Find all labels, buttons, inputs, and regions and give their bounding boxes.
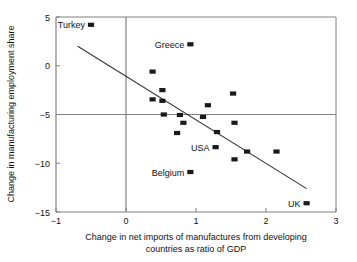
y-tick-label: −5 bbox=[40, 110, 50, 120]
x-tick-label: 3 bbox=[333, 216, 338, 226]
y-tick-label: 0 bbox=[45, 61, 50, 71]
y-tick-label: −15 bbox=[35, 208, 50, 218]
data-point-marker bbox=[177, 113, 183, 117]
x-axis-title-line1: Change in net imports of manufactures fr… bbox=[85, 232, 307, 242]
y-tick-label: −10 bbox=[35, 159, 50, 169]
y-axis-title: Change in manufacturing employment share bbox=[6, 25, 16, 202]
data-point-marker bbox=[273, 149, 279, 153]
data-point-marker bbox=[88, 23, 94, 27]
data-point-marker bbox=[187, 170, 193, 174]
data-point-marker bbox=[150, 70, 156, 74]
x-tick-labels-group: −10123 bbox=[51, 216, 339, 226]
data-point-marker bbox=[150, 97, 156, 101]
data-point-marker bbox=[304, 201, 310, 205]
x-axis-title-line2: countries as ratio of GDP bbox=[146, 244, 247, 254]
data-point-marker bbox=[200, 115, 206, 119]
x-tick-label: 1 bbox=[193, 216, 198, 226]
scatter-chart-figure: −10123 50−5−10−15 TurkeyGreeceUSABelgium… bbox=[0, 0, 357, 262]
data-point-marker bbox=[213, 145, 219, 149]
x-tick-label: −1 bbox=[51, 216, 61, 226]
point-label-belgium: Belgium bbox=[152, 168, 185, 178]
data-point-marker bbox=[214, 130, 220, 134]
trend-line bbox=[78, 46, 307, 188]
y-tick-label: 5 bbox=[45, 13, 50, 23]
x-axis-title: Change in net imports of manufactures fr… bbox=[85, 232, 307, 254]
data-point-marker bbox=[174, 131, 180, 135]
x-tick-label: 0 bbox=[123, 216, 128, 226]
x-tick-label: 2 bbox=[263, 216, 268, 226]
data-point-marker bbox=[180, 121, 186, 125]
axes-group bbox=[56, 17, 336, 212]
point-label-uk: UK bbox=[288, 199, 301, 209]
data-point-marker bbox=[205, 103, 211, 107]
point-label-greece: Greece bbox=[155, 40, 185, 50]
point-label-usa: USA bbox=[191, 143, 210, 153]
data-point-marker bbox=[187, 42, 193, 46]
data-point-marker bbox=[244, 149, 250, 153]
point-label-turkey: Turkey bbox=[58, 20, 86, 30]
chart-canvas: −10123 50−5−10−15 TurkeyGreeceUSABelgium… bbox=[0, 0, 357, 262]
data-point-marker bbox=[230, 91, 236, 95]
y-tick-labels-group: 50−5−10−15 bbox=[35, 13, 50, 218]
data-point-marker bbox=[159, 88, 165, 92]
data-point-marker bbox=[231, 157, 237, 161]
data-point-marker bbox=[159, 99, 165, 103]
data-point-marker bbox=[161, 112, 167, 116]
data-point-marker bbox=[231, 121, 237, 125]
